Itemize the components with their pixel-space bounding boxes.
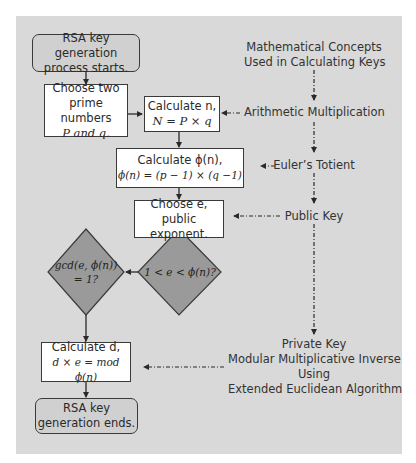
choose-primes-line1: Choose two (52, 81, 119, 96)
concept-arithmetic: Arithmetic Multiplication (244, 105, 384, 120)
calc-n-box: Calculate n, N = P × q (144, 96, 220, 132)
decision-range-text: 1 < e < ϕ(n)? (138, 265, 222, 279)
calc-phi-box: Calculate ϕ(n), ϕ(n) = (p − 1) × (q −1) (116, 148, 244, 188)
choose-e-line1: Choose e, (151, 197, 208, 212)
decision-gcd-text: gcd(e, ϕ(n)) = 1? (48, 258, 124, 286)
calc-d-line2: d × e = mod ϕ(n) (42, 355, 130, 385)
decision-gcd-line1: gcd(e, ϕ(n)) (48, 258, 124, 272)
choose-primes-box: Choose two prime numbers P and q. (44, 84, 128, 137)
concepts-header-line2: Used in Calculating Keys (244, 55, 384, 70)
start-line1: RSA key generation (33, 31, 139, 61)
end-line1: RSA key (63, 401, 110, 416)
calc-phi-line2: ϕ(n) = (p − 1) × (q −1) (118, 168, 242, 183)
concepts-header: Mathematical Concepts Used in Calculatin… (244, 40, 384, 70)
calc-n-line2: N = P × q (152, 114, 211, 129)
choose-primes-line2: prime numbers (45, 96, 127, 126)
calc-d-box: Calculate d, d × e = mod ϕ(n) (41, 342, 131, 382)
choose-primes-line3: P and q. (62, 126, 110, 141)
concept-private-key: Private Key Modular Multiplicative Inver… (228, 337, 400, 397)
private-key-line4: Extended Euclidean Algorithm (228, 382, 400, 397)
calc-phi-line1: Calculate ϕ(n), (138, 153, 223, 168)
concept-euler: Euler’s Totient (264, 158, 364, 173)
end-line2: generation ends. (38, 416, 136, 431)
end-terminal: RSA key generation ends. (35, 398, 138, 434)
calc-d-line1: Calculate d, (52, 340, 120, 355)
start-line2: process starts. (44, 61, 128, 76)
concepts-header-line1: Mathematical Concepts (244, 40, 384, 55)
decision-gcd-line2: = 1? (48, 272, 124, 286)
private-key-line1: Private Key (228, 337, 400, 352)
calc-n-line1: Calculate n, (148, 99, 216, 114)
private-key-line2: Modular Multiplicative Inverse (228, 352, 400, 367)
start-terminal: RSA key generation process starts. (32, 34, 140, 72)
concept-public-key: Public Key (284, 209, 344, 224)
choose-e-line2: public exponent. (135, 212, 223, 242)
private-key-line3: Using (228, 367, 400, 382)
choose-e-box: Choose e, public exponent. (134, 200, 224, 238)
